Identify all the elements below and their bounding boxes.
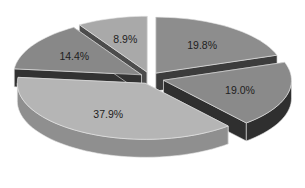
label-slice-c: 37.9% <box>93 108 123 120</box>
label-slice-d: 14.4% <box>59 50 89 62</box>
pie-chart-3d: 8.9%19.8%14.4%19.0%37.9% <box>0 0 305 188</box>
label-slice-b: 19.0% <box>225 84 255 96</box>
slice-sides: 8.9%19.8%14.4%19.0%37.9% <box>14 16 291 157</box>
label-slice-e: 8.9% <box>113 33 137 45</box>
label-slice-a: 19.8% <box>187 39 217 51</box>
